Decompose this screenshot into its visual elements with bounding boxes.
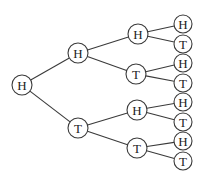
node-label: T xyxy=(133,141,141,156)
tree-node-tails: T xyxy=(174,113,192,131)
tree-edge xyxy=(31,58,70,80)
node-label: T xyxy=(179,37,187,52)
node-label: H xyxy=(17,78,26,93)
tree-nodes: HHTHTHTHTHTHTHT xyxy=(12,15,192,170)
tree-edge xyxy=(30,91,70,122)
node-label: T xyxy=(74,121,82,136)
tree-node-tails: T xyxy=(174,152,192,170)
tree-edge xyxy=(87,56,126,70)
tree-node-heads: H xyxy=(174,54,192,72)
tree-node-heads: H xyxy=(127,100,147,120)
node-label: T xyxy=(179,76,187,91)
tree-node-heads: H xyxy=(68,43,88,63)
tree-edge xyxy=(147,142,174,146)
node-label: H xyxy=(178,56,187,71)
tree-node-tails: T xyxy=(174,74,192,92)
node-label: T xyxy=(179,115,187,130)
tree-edge xyxy=(148,36,174,42)
node-label: H xyxy=(178,17,187,32)
tree-node-heads: H xyxy=(174,15,192,33)
tree-edge xyxy=(147,151,175,159)
tree-node-heads: H xyxy=(174,132,192,150)
tree-edge xyxy=(88,37,129,50)
node-label: H xyxy=(178,95,187,110)
tree-node-tails: T xyxy=(68,118,88,138)
tree-edge xyxy=(146,65,174,72)
tree-node-heads: H xyxy=(174,93,192,111)
node-label: H xyxy=(73,46,82,61)
tree-edges xyxy=(30,26,174,159)
node-label: T xyxy=(132,67,140,82)
tree-node-heads: H xyxy=(12,75,32,95)
tree-edge xyxy=(148,26,174,32)
tree-node-tails: T xyxy=(127,138,147,158)
tree-node-heads: H xyxy=(128,24,148,44)
node-label: T xyxy=(179,154,187,169)
tree-node-tails: T xyxy=(174,35,192,53)
node-label: H xyxy=(178,134,187,149)
tree-node-tails: T xyxy=(126,64,146,84)
node-label: H xyxy=(133,27,142,42)
tree-edge xyxy=(147,104,174,109)
tree-edge xyxy=(88,113,128,125)
tree-edge xyxy=(87,131,127,145)
tree-edge xyxy=(147,113,175,120)
node-label: H xyxy=(132,103,141,118)
probability-tree-diagram: HHTHTHTHTHTHTHT xyxy=(0,0,208,181)
tree-edge xyxy=(146,76,174,81)
